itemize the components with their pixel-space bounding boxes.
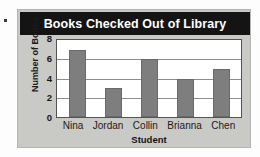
y-axis-tick-labels: 8 6 4 2 0 [40,39,52,118]
page-speck [4,19,7,22]
bar [105,88,122,117]
x-tick-label: Nina [63,120,84,131]
bar [177,79,194,118]
x-axis-tick-labels: NinaJordanCollinBriannaChen [56,120,242,131]
x-tick-label: Brianna [167,120,201,131]
y-tick-label: 8 [47,34,52,44]
x-tick-label: Jordan [93,120,124,131]
x-tick-label: Chen [211,120,235,131]
bar [141,59,158,117]
chart-screenshot: Books Checked Out of Library Number of B… [0,0,260,157]
y-axis-title: Number of Books [30,26,40,92]
y-tick-label: 0 [47,113,52,123]
y-tick-label: 6 [47,54,52,64]
y-tick-label: 2 [47,94,52,104]
y-tick-label: 4 [47,74,52,84]
chart-title: Books Checked Out of Library [44,17,227,31]
x-tick-label: Collin [133,120,158,131]
chart-title-banner: Books Checked Out of Library [20,12,250,35]
x-axis-title: Student [56,134,242,145]
bar [213,69,230,117]
bar-series [57,40,241,117]
bar [69,50,86,117]
plot-area [56,39,242,118]
chart-card: Books Checked Out of Library Number of B… [17,9,251,148]
